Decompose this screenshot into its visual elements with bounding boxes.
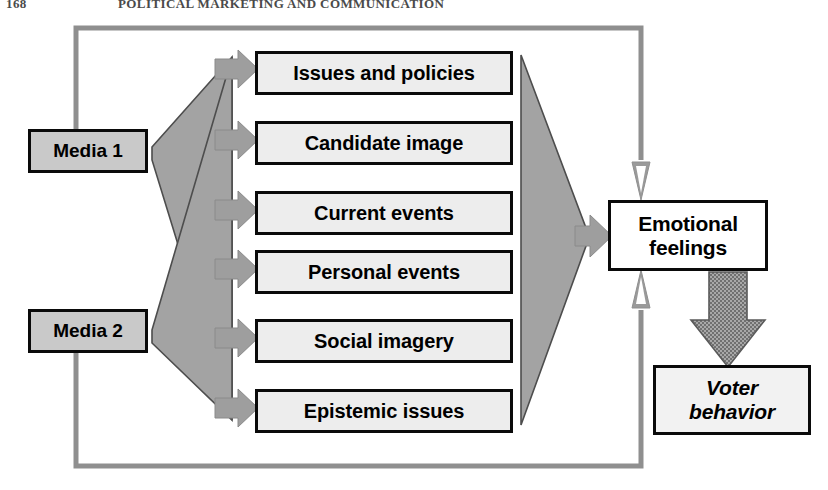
node-media-2-label: Media 2	[49, 320, 127, 341]
node-emotional-feelings[interactable]: Emotional feelings	[608, 200, 768, 271]
node-current-events-label: Current events	[310, 202, 458, 224]
attributes-converging-connector	[521, 55, 612, 425]
node-voter-behavior-line1: Voter	[702, 376, 762, 400]
node-emotional-feelings-line2: feelings	[645, 236, 731, 260]
node-social-imagery-label: Social imagery	[310, 330, 458, 352]
node-candidate-image-label: Candidate image	[301, 132, 468, 154]
node-candidate-image[interactable]: Candidate image	[255, 121, 513, 165]
emotion-to-voter-arrow	[691, 272, 765, 367]
diagram-page: 168 POLITICAL MARKETING AND COMMUNICATIO…	[0, 0, 828, 490]
node-epistemic-issues-label: Epistemic issues	[300, 400, 469, 422]
node-media-1-label: Media 1	[49, 140, 127, 161]
node-voter-behavior[interactable]: Voter behavior	[653, 365, 811, 435]
node-media-2[interactable]: Media 2	[28, 309, 148, 353]
node-media-1[interactable]: Media 1	[28, 129, 148, 173]
node-personal-events-label: Personal events	[304, 261, 464, 283]
node-issues-and-policies[interactable]: Issues and policies	[255, 51, 513, 95]
node-issues-and-policies-label: Issues and policies	[289, 62, 479, 84]
node-social-imagery[interactable]: Social imagery	[255, 319, 513, 363]
node-emotional-feelings-line1: Emotional	[634, 212, 742, 236]
node-voter-behavior-line2: behavior	[685, 400, 779, 424]
node-personal-events[interactable]: Personal events	[255, 250, 513, 294]
node-epistemic-issues[interactable]: Epistemic issues	[255, 389, 513, 433]
node-current-events[interactable]: Current events	[255, 191, 513, 235]
